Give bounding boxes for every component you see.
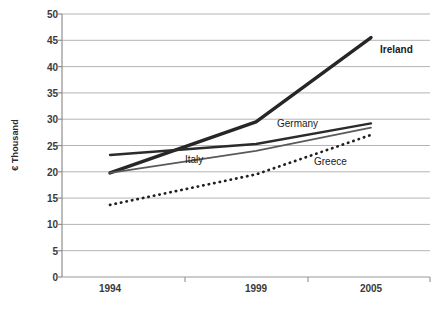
series-label-greece: Greece [314, 156, 347, 167]
series-label-germany: Germany [277, 118, 318, 129]
series-label-ireland: Ireland [380, 44, 413, 55]
x-axis-line [62, 277, 430, 282]
y-axis-line [57, 14, 62, 277]
line-chart: € Thousand 50 45 40 35 30 25 20 15 10 5 … [0, 0, 442, 311]
series-label-italy: Italy [185, 154, 203, 165]
x-tick-2005: 2005 [341, 283, 401, 294]
x-tick-1999: 1999 [226, 283, 286, 294]
gridlines [62, 14, 430, 251]
x-tick-1994: 1994 [80, 283, 140, 294]
series-lines [110, 38, 371, 205]
plot-area [0, 0, 442, 311]
